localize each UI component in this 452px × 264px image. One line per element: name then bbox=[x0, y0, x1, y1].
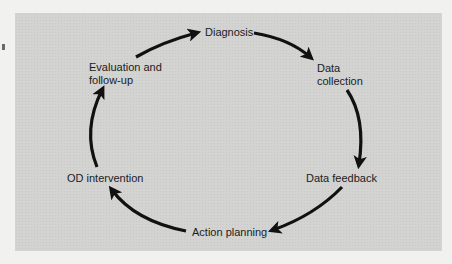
node-evaluation: Evaluation and follow-up bbox=[89, 61, 162, 87]
node-data-feedback: Data feedback bbox=[306, 172, 377, 185]
node-data-collection-line-2: collection bbox=[317, 75, 363, 88]
node-diagnosis-label: Diagnosis bbox=[205, 26, 253, 39]
arrow-action-planning-to-od-intervention bbox=[112, 190, 186, 231]
node-diagnosis: Diagnosis bbox=[205, 26, 253, 39]
arrow-data-feedback-to-action-planning bbox=[273, 187, 342, 230]
node-data-collection: Data collection bbox=[317, 62, 363, 88]
node-evaluation-line-1: Evaluation and bbox=[89, 61, 162, 74]
node-action-planning-label: Action planning bbox=[192, 226, 267, 239]
arrow-data-collection-to-data-feedback bbox=[347, 90, 361, 164]
node-evaluation-line-2: follow-up bbox=[89, 74, 162, 87]
node-data-feedback-label: Data feedback bbox=[306, 172, 377, 185]
arrow-diagnosis-to-data-collection bbox=[254, 33, 310, 57]
node-od-intervention: OD intervention bbox=[67, 172, 143, 185]
cycle-arrows bbox=[0, 0, 452, 264]
node-action-planning: Action planning bbox=[192, 226, 267, 239]
arrow-od-intervention-to-evaluation bbox=[91, 90, 102, 167]
node-od-intervention-label: OD intervention bbox=[67, 172, 143, 185]
arrow-evaluation-to-diagnosis bbox=[136, 33, 196, 57]
node-data-collection-line-1: Data bbox=[317, 62, 363, 75]
